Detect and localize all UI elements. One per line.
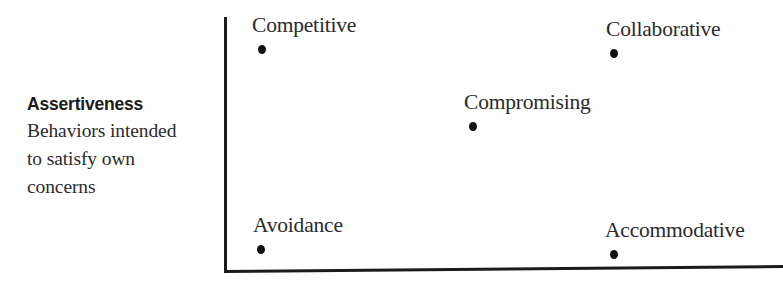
node-label-compromising: Compromising (464, 92, 591, 114)
axis-caption-title: Assertiveness (27, 92, 217, 117)
data-point-dot (469, 122, 477, 131)
node-label-accommodative: Accommodative (605, 220, 745, 242)
axis-caption-line-3: concerns (27, 173, 217, 201)
node-label-competitive: Competitive (252, 15, 356, 37)
axis-caption-line-2: to satisfy own (27, 145, 217, 173)
node-label-avoidance: Avoidance (253, 215, 343, 237)
node-label-collaborative: Collaborative (606, 19, 720, 41)
assertiveness-axis-line (224, 17, 227, 273)
data-point-dot (610, 49, 618, 58)
cooperativeness-axis-line (224, 255, 783, 277)
data-point-dot (258, 45, 266, 54)
assertiveness-axis-caption: Assertiveness Behaviors intended to sati… (27, 92, 217, 201)
axis-caption-line-1: Behaviors intended (27, 117, 217, 145)
data-point-dot (610, 250, 618, 259)
data-point-dot (257, 245, 265, 254)
diagram-canvas: Assertiveness Behaviors intended to sati… (0, 0, 783, 291)
